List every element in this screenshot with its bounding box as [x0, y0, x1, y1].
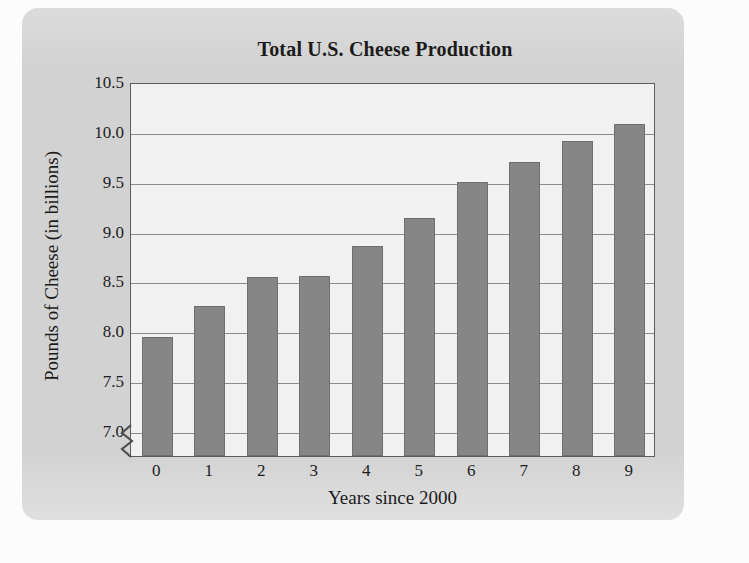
bar: [352, 246, 383, 456]
y-tick-label: 9.5: [68, 173, 124, 193]
x-axis-label: Years since 2000: [130, 487, 655, 509]
x-tick-label: 9: [609, 461, 649, 481]
y-tick-label: 9.0: [68, 223, 124, 243]
plot-area: [130, 83, 655, 457]
axis-break-icon: [117, 424, 139, 458]
y-axis-ticks: 7.07.58.08.59.09.510.010.5: [62, 83, 124, 457]
bar: [247, 277, 278, 456]
x-tick-label: 1: [189, 461, 229, 481]
bar: [194, 306, 225, 456]
y-tick-label: 8.0: [68, 322, 124, 342]
x-tick-label: 0: [136, 461, 176, 481]
bar: [457, 182, 488, 456]
y-tick-label: 8.5: [68, 272, 124, 292]
chart-title: Total U.S. Cheese Production: [120, 38, 650, 61]
chart-page: Total U.S. Cheese Production 7.07.58.08.…: [0, 0, 749, 563]
y-tick-label: 10.5: [68, 73, 124, 93]
x-tick-label: 6: [451, 461, 491, 481]
x-tick-label: 5: [399, 461, 439, 481]
y-axis-label: Pounds of Cheese (in billions): [41, 106, 63, 426]
bar: [299, 276, 330, 456]
y-tick-label: 7.5: [68, 372, 124, 392]
bar: [614, 124, 645, 456]
x-tick-label: 4: [346, 461, 386, 481]
bar: [562, 141, 593, 456]
x-axis-ticks: 0123456789: [130, 461, 655, 487]
bar: [404, 218, 435, 456]
gridline: [131, 134, 654, 135]
bar: [509, 162, 540, 456]
x-tick-label: 8: [556, 461, 596, 481]
y-tick-label: 7.0: [68, 422, 124, 442]
x-tick-label: 3: [294, 461, 334, 481]
bar: [142, 337, 173, 456]
y-tick-label: 10.0: [68, 123, 124, 143]
x-tick-label: 2: [241, 461, 281, 481]
x-tick-label: 7: [504, 461, 544, 481]
